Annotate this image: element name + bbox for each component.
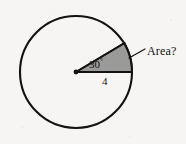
angle-label: 30° <box>89 58 103 70</box>
center-point-dot <box>74 70 79 75</box>
callout-leader-line <box>129 49 145 58</box>
angle-value: 30 <box>89 58 100 70</box>
geometry-figure: 30° 4 Area? <box>0 0 186 144</box>
figure-canvas <box>0 0 186 144</box>
area-question-label: Area? <box>147 45 177 57</box>
degree-symbol: ° <box>100 57 103 65</box>
radius-length-label: 4 <box>102 76 108 87</box>
